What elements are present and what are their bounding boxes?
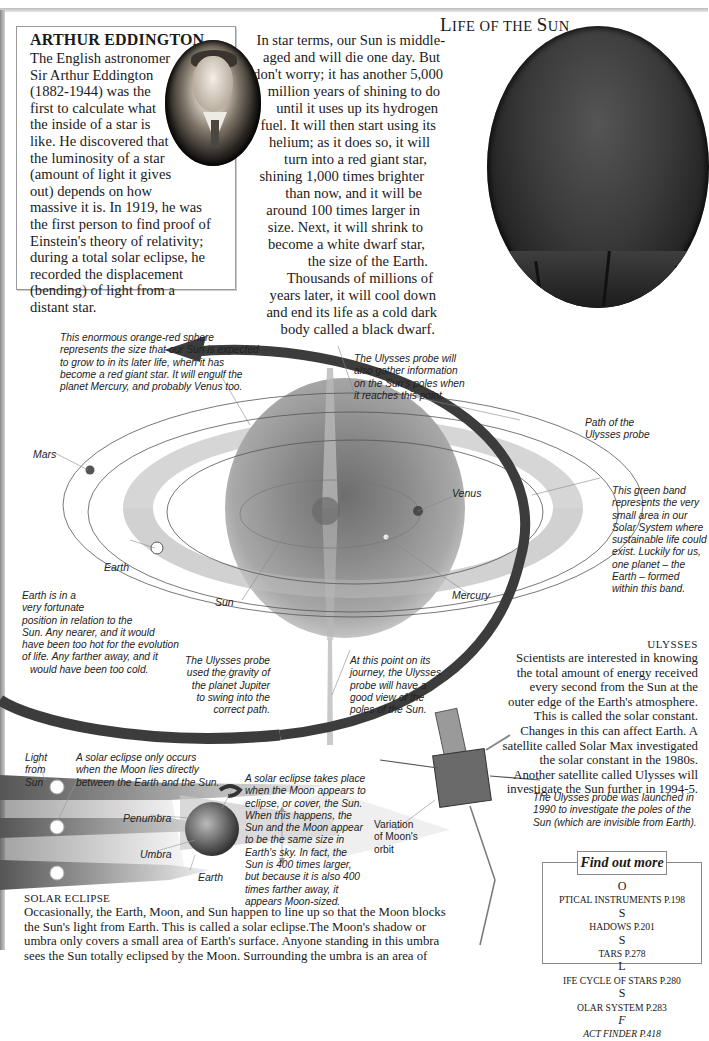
earth-position-caption: Earth is in avery fortunateposition in r… <box>22 590 179 676</box>
red-giant-sphere <box>225 378 465 638</box>
umbra-label: Umbra <box>140 848 172 860</box>
mars-label: Mars <box>33 448 56 460</box>
cross-reference-link[interactable]: LIFE CYCLE OF STARS P.280 <box>542 960 702 987</box>
ulysses-path-caption: Path of theUlysses probe <box>585 417 650 442</box>
light-from-sun-caption: LightfromSun <box>25 752 47 789</box>
red-giant-caption: This enormous orange-red sphererepresent… <box>60 332 259 393</box>
mars-planet <box>86 466 95 475</box>
sun-core <box>312 497 340 525</box>
penumbra-label: Penumbra <box>123 812 171 824</box>
find-out-more-list: OPTICAL INSTRUMENTS P.198 SHADOWS P.201 … <box>542 880 702 1041</box>
cross-reference-link[interactable]: SOLAR SYSTEM P.283 <box>542 987 702 1014</box>
venus-label: Venus <box>452 487 481 499</box>
earth-planet <box>151 542 163 554</box>
eclipse-earth <box>185 802 239 856</box>
eclipse-occurs-caption: A solar eclipse only occurswhen the Moon… <box>76 752 219 789</box>
cross-reference-link[interactable]: STARS P.278 <box>542 934 702 961</box>
solar-eclipse-text: Occasionally, the Earth, Moon, and Sun h… <box>24 905 446 963</box>
cross-reference-link[interactable]: FACT FINDER P.418 <box>542 1014 702 1041</box>
poles-top-caption: The Ulysses probe willalso gather inform… <box>354 353 465 402</box>
probe-caption: The Ulysses probe was launched in1990 to… <box>533 792 697 829</box>
eclipse-earth-label: Earth <box>198 871 223 883</box>
jupiter-caption: The Ulysses probeused the gravity ofthe … <box>180 655 270 716</box>
eclipse-takes-place-caption: A solar eclipse takes placewhen the Moon… <box>245 773 366 908</box>
sun-label: Sun <box>215 596 234 608</box>
green-band-caption: This green bandrepresents the verysmall … <box>612 485 707 596</box>
ulysses-title: ULYSSES <box>647 638 698 650</box>
solar-eclipse-title: SOLAR ECLIPSE <box>24 892 110 904</box>
mercury-label: Mercury <box>452 589 490 601</box>
poles-bottom-caption: At this point on itsjourney, the Ulysses… <box>350 655 441 716</box>
ulysses-text: Scientists are interested in knowingthe … <box>503 651 698 797</box>
cross-reference-link[interactable]: SHADOWS P.201 <box>542 907 702 934</box>
find-out-more-heading: Find out more <box>577 851 667 875</box>
earth-label: Earth <box>104 561 129 573</box>
moon-orbit-variation-caption: Variationof Moon'sorbit <box>374 819 418 856</box>
cross-reference-link[interactable]: OPTICAL INSTRUMENTS P.198 <box>542 880 702 907</box>
